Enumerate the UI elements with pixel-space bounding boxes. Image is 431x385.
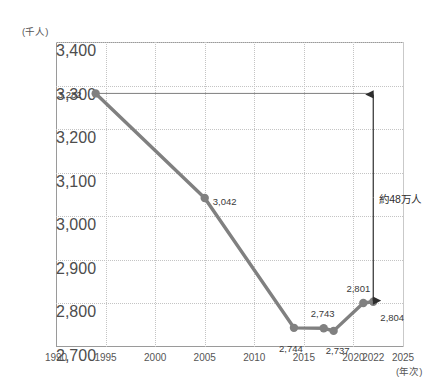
series-layer bbox=[0, 0, 431, 385]
point-label-1994: 3,282 bbox=[58, 89, 82, 100]
data-point-2014 bbox=[290, 324, 298, 332]
data-point-2017 bbox=[319, 324, 327, 332]
point-label-2018: 2,737 bbox=[326, 344, 350, 355]
data-point-1994 bbox=[91, 89, 99, 97]
line-chart: (千人) 3,4003,3003,2003,1003,0002,9002,800… bbox=[0, 0, 431, 385]
data-point-2021 bbox=[359, 299, 367, 307]
data-point-2018 bbox=[329, 327, 337, 335]
series-markers bbox=[91, 89, 377, 335]
point-label-2017: 2,743 bbox=[311, 308, 335, 319]
series-line bbox=[96, 93, 374, 330]
point-label-2014: 2,744 bbox=[279, 342, 303, 353]
point-label-2022: 2,804 bbox=[380, 311, 404, 322]
point-label-2021: 2,801 bbox=[346, 282, 370, 293]
data-point-2005 bbox=[201, 194, 209, 202]
point-label-2005: 3,042 bbox=[213, 195, 237, 206]
x-axis-unit-label: (年次) bbox=[396, 364, 422, 378]
gap-annotation-label: 約48万人 bbox=[379, 190, 421, 205]
